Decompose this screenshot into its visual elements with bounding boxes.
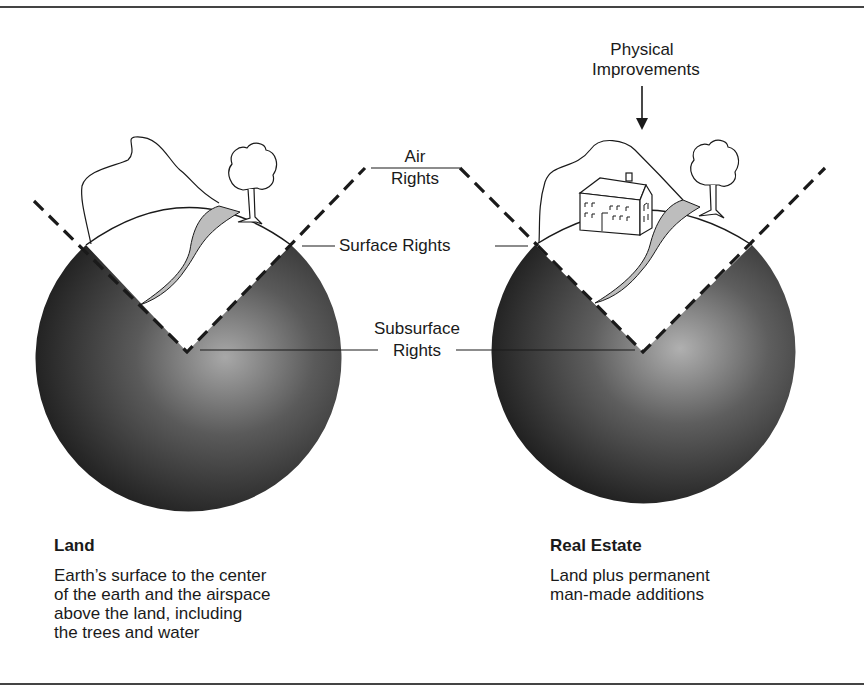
description-line: the trees and water — [54, 623, 270, 642]
label-line: Subsurface — [362, 318, 472, 340]
label-line: Rights — [375, 168, 455, 190]
real-estate-title: Real Estate — [550, 536, 642, 556]
subsurface-rights-label: Subsurface Rights — [362, 318, 472, 362]
real-estate-description: Land plus permanent man-made additions — [550, 566, 710, 604]
label-line: Improvements — [592, 60, 692, 80]
description-line: above the land, including — [54, 604, 270, 623]
description-line: of the earth and the airspace — [54, 585, 270, 604]
house-icon — [580, 173, 652, 235]
land-water-stream — [140, 206, 240, 305]
land-description: Earth’s surface to the center of the ear… — [54, 566, 270, 642]
air-rights-label: Air Rights — [375, 146, 455, 190]
land-title: Land — [54, 536, 95, 556]
physical-improvements-label: Physical Improvements — [592, 40, 692, 80]
land-sphere — [36, 208, 342, 512]
real-estate-sphere — [492, 210, 796, 503]
surface-rights-label: Surface Rights — [339, 236, 451, 256]
label-line: Rights — [362, 340, 472, 362]
description-line: Land plus permanent — [550, 566, 710, 585]
description-line: Earth’s surface to the center — [54, 566, 270, 585]
arrow-down-icon — [636, 86, 648, 130]
label-line: Air — [375, 146, 455, 168]
label-line: Physical — [592, 40, 692, 60]
description-line: man-made additions — [550, 585, 710, 604]
